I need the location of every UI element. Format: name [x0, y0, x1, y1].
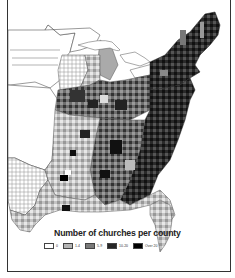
legend-swatch-5-9	[85, 243, 95, 249]
northeast-region	[150, 12, 220, 90]
legend-label: 5-9	[97, 244, 102, 248]
legend: 0 1-4 5-9 10-20 Over 20	[44, 243, 157, 249]
legend-label: 1-4	[75, 244, 80, 248]
legend-item-1-4: 1-4	[63, 243, 80, 249]
legend-label: 0	[56, 244, 58, 248]
legend-title: Number of churches per county	[54, 227, 181, 238]
legend-swatch-over-20	[133, 243, 143, 249]
legend-item-0: 0	[44, 243, 58, 249]
legend-swatch-10-20	[107, 243, 117, 249]
legend-swatch-0	[44, 243, 54, 249]
legend-swatch-1-4	[63, 243, 73, 249]
legend-item-over-20: Over 20	[133, 243, 157, 249]
legend-item-10-20: 10-20	[107, 243, 128, 249]
legend-label: 10-20	[119, 244, 128, 248]
legend-label: Over 20	[145, 244, 157, 248]
legend-item-5-9: 5-9	[85, 243, 102, 249]
